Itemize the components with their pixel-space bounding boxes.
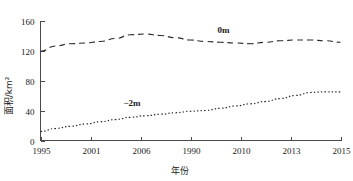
chart-figure: 04080120160 1995200120061990201020132015…	[0, 0, 353, 181]
y-tick-label: 40	[26, 107, 36, 117]
y-tick-label: 160	[21, 17, 35, 27]
series-annotation: 0m	[218, 25, 231, 35]
y-tick-label: 80	[26, 77, 36, 87]
x-tick-label: 1995	[33, 146, 52, 156]
x-axis-title: 年份	[171, 165, 189, 176]
y-tick-label: 120	[21, 47, 35, 57]
x-tick-label: 2006	[133, 146, 152, 156]
y-axis-title: 面积/km²	[3, 76, 14, 115]
x-tick-label: 2001	[83, 146, 101, 156]
x-tick-label: 2010	[233, 146, 252, 156]
x-tick-label: 2013	[283, 146, 302, 156]
x-tick-label: 1990	[183, 146, 202, 156]
series-annotation: −2m	[123, 98, 141, 108]
area-line-chart: 04080120160 1995200120061990201020132015…	[0, 0, 353, 181]
x-tick-label: 2015	[333, 146, 352, 156]
